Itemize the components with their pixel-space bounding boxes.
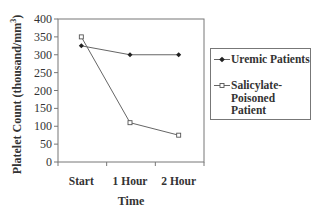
series-salicylate-poisoned-patient	[79, 35, 180, 137]
x-tick-label: 2 Hour	[161, 175, 196, 187]
y-tick-label: 100	[34, 119, 52, 133]
legend-item-uremic: Uremic Patients	[213, 53, 310, 67]
x-tick-label: Start	[69, 175, 94, 187]
y-tick-label: 300	[34, 48, 52, 62]
data-point	[177, 133, 181, 137]
x-tick-label: 1 Hour	[113, 175, 148, 187]
y-axis: 050100150200250300350400	[34, 12, 58, 169]
series-layer	[79, 35, 181, 137]
series-uremic-patients	[79, 43, 181, 57]
x-axis-title: Time	[118, 194, 145, 208]
open-square-marker-icon	[213, 79, 231, 93]
y-tick-label: 400	[34, 12, 52, 26]
data-point	[79, 35, 83, 39]
svg-text:Platelet Count (thousand/mm3): Platelet Count (thousand/mm3)	[9, 15, 24, 174]
legend: Uremic Patients Salicylate- Poisoned Pat…	[210, 48, 311, 120]
plot-area	[58, 19, 204, 162]
legend-label: Salicylate- Poisoned Patient	[231, 79, 282, 117]
y-axis-title: Platelet Count (thousand/mm3)	[9, 15, 24, 174]
y-tick-label: 200	[34, 84, 52, 98]
legend-label: Uremic Patients	[231, 53, 310, 66]
data-point	[128, 121, 132, 125]
data-point	[127, 52, 132, 57]
filled-diamond-marker-icon	[213, 53, 231, 67]
y-tick-label: 0	[46, 155, 52, 169]
data-point	[79, 43, 84, 48]
y-tick-label: 350	[34, 30, 52, 44]
y-tick-label: 250	[34, 66, 52, 80]
x-axis: Start1 Hour2 Hour	[58, 162, 204, 187]
y-tick-label: 50	[40, 137, 52, 151]
legend-item-salicylate: Salicylate- Poisoned Patient	[213, 79, 282, 117]
y-tick-label: 150	[34, 101, 52, 115]
data-point	[176, 52, 181, 57]
